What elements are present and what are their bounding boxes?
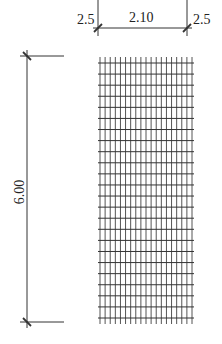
dim-label-left-offset: 2.5: [77, 12, 95, 27]
dim-label-width: 2.10: [129, 10, 154, 25]
dim-label-height: 6.00: [12, 180, 27, 205]
dim-label-right-offset: 2.5: [193, 12, 211, 27]
mesh-drawing: 2.5 2.10 2.5 6.00: [0, 0, 222, 344]
reinforcement-mesh: [98, 57, 194, 324]
